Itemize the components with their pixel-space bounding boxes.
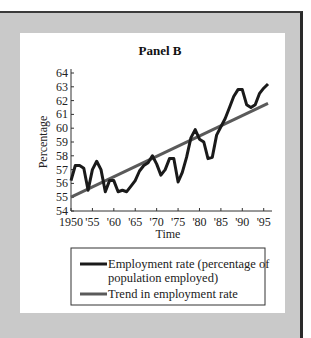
x-tick-label: '60 <box>107 215 121 229</box>
y-axis-label: Percentage <box>36 116 50 169</box>
trend-line <box>71 103 268 197</box>
x-tick-label: '85 <box>214 215 228 229</box>
y-tick-label: 59 <box>56 135 68 149</box>
y-tick-label: 64 <box>56 66 68 80</box>
y-tick-label: 60 <box>56 121 68 135</box>
x-tick-label: '55 <box>85 215 99 229</box>
legend-label-trend: Trend in employment rate <box>108 287 238 301</box>
y-tick-label: 63 <box>56 80 68 94</box>
legend-label-employment: Employment rate (percentage of <box>108 257 270 271</box>
x-tick-label: '80 <box>192 215 206 229</box>
y-tick-label: 61 <box>56 107 68 121</box>
x-tick-label: '65 <box>128 215 142 229</box>
x-tick-label: '90 <box>235 215 249 229</box>
x-axis-label: Time <box>156 227 181 241</box>
legend-label-employment-cont: population employed) <box>108 271 218 285</box>
chart-title: Panel B <box>139 43 182 58</box>
x-tick-label: 1950 <box>59 215 83 229</box>
employment-rate-line <box>71 84 268 192</box>
y-tick-label: 56 <box>56 176 68 190</box>
y-tick-label: 62 <box>56 94 68 108</box>
x-tick-label: '95 <box>257 215 271 229</box>
legend: Employment rate (percentage of populatio… <box>71 248 270 305</box>
y-tick-label: 58 <box>56 149 68 163</box>
y-tick-label: 55 <box>56 190 68 204</box>
y-tick-label: 57 <box>56 163 68 177</box>
